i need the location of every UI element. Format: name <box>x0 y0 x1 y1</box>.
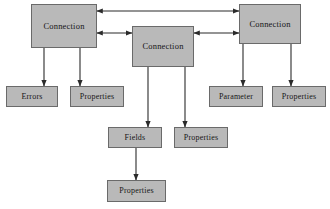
node-errors[interactable]: Errors <box>6 86 58 107</box>
node-properties-left[interactable]: Properties <box>70 86 124 107</box>
node-connection-left[interactable]: Connection <box>31 4 97 48</box>
node-properties-middle[interactable]: Properties <box>174 127 228 148</box>
node-properties-right[interactable]: Properties <box>272 86 326 107</box>
node-properties-bottom[interactable]: Properties <box>107 180 166 202</box>
node-label: Properties <box>184 134 218 142</box>
diagram-canvas: ConnectionConnectionConnectionErrorsProp… <box>0 0 330 209</box>
node-label: Connection <box>43 22 84 31</box>
node-label: Errors <box>21 93 42 101</box>
node-label: Properties <box>282 93 316 101</box>
node-label: Parameter <box>219 93 253 101</box>
node-parameter[interactable]: Parameter <box>209 86 263 107</box>
node-connection-right[interactable]: Connection <box>239 4 301 44</box>
node-label: Fields <box>125 134 146 142</box>
node-label: Connection <box>142 42 183 51</box>
node-label: Properties <box>119 187 153 195</box>
node-fields[interactable]: Fields <box>108 127 162 148</box>
node-connection-middle[interactable]: Connection <box>132 26 194 67</box>
node-label: Properties <box>80 93 114 101</box>
node-label: Connection <box>249 20 290 29</box>
